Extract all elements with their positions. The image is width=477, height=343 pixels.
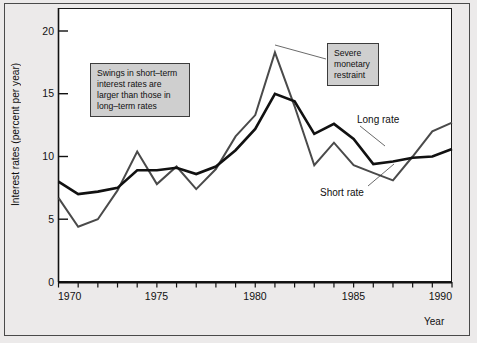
series-label-long-rate: Long rate: [357, 114, 399, 125]
y-tick-label-15: 15: [42, 87, 54, 99]
x-tick-label-1985: 1985: [342, 290, 366, 302]
leader-line-long-rate: [360, 126, 385, 146]
x-tick-labels: 1970 1975 1980 1985 1990: [58, 290, 452, 302]
x-tick-label-1970: 1970: [58, 290, 82, 302]
chart-svg: 20 15 10 5 0 1970 1975 1980 1985 1990: [0, 0, 477, 343]
x-tick-label-1980: 1980: [243, 290, 267, 302]
series-label-short-rate: Short rate: [320, 187, 364, 198]
y-tick-label-10: 10: [42, 150, 54, 162]
x-tick-label-1990: 1990: [429, 290, 453, 302]
figure-container: Interest rates (percent per year) 20 15 …: [0, 0, 477, 343]
annotation-swings-callout: Swings in short–term interest rates are …: [90, 63, 190, 117]
y-tick-label-20: 20: [42, 25, 54, 37]
y-tick-label-0: 0: [48, 276, 54, 288]
x-tick-label-1975: 1975: [145, 290, 169, 302]
leader-line-restraint: [275, 45, 326, 59]
annotation-restraint-callout: Severe monetary restraint: [327, 43, 379, 86]
x-axis-ticks: [59, 282, 453, 288]
leader-line-short-rate: [368, 164, 394, 186]
x-axis-title: Year: [424, 316, 444, 327]
y-tick-labels: 20 15 10 5 0: [42, 25, 54, 288]
y-tick-label-5: 5: [48, 213, 54, 225]
y-axis-ticks: [59, 31, 69, 282]
